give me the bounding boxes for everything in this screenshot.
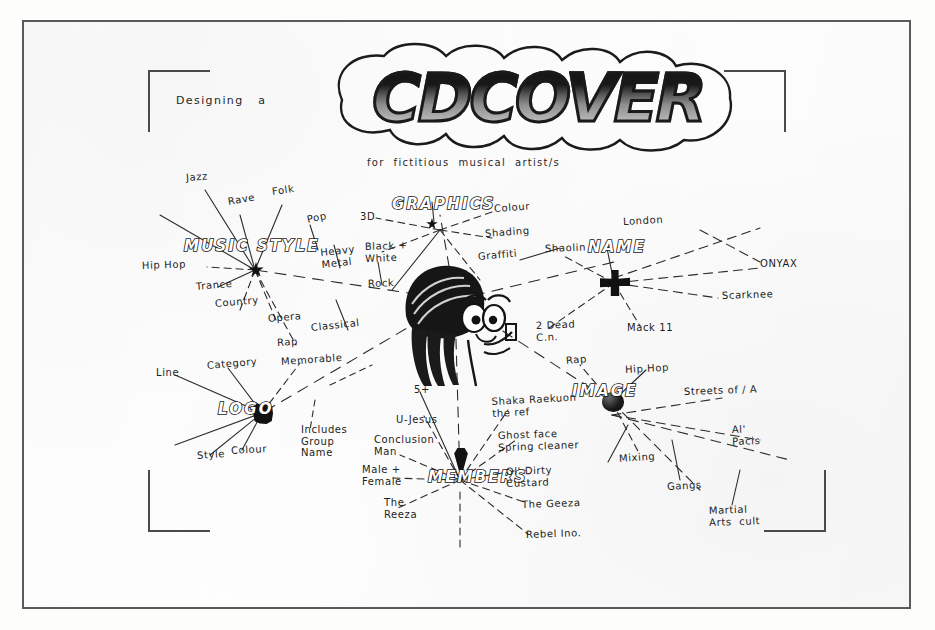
mindmap-page: Designing a CDCOVER for fictitious music… [0,0,935,630]
leaf-name-2-dead: 2 Dead C.n. [536,319,576,343]
leaf-music-rock: Rock [368,277,395,289]
leaf-logo-group-name: Includes Group Name [301,424,347,459]
leaf-logo-style: Style [197,448,226,461]
leaf-name-scarknee: Scarknee [722,288,774,301]
leaf-members-ghostface: Ghost face Spring cleaner [498,427,580,453]
page-subtitle: for fictitious musical artist/s [367,157,560,169]
leaf-name-mack-11: Mack 11 [627,322,673,334]
leaf-members-the-reeza: The Reeza [384,497,417,520]
title-text: CDCOVER [312,42,764,154]
page-title-prefix: Designing a [176,95,266,108]
node-image[interactable]: IMAGE [572,382,638,400]
leaf-music-hip-hop: Hip Hop [142,258,186,271]
leaf-image-gangs: Gangs [667,479,702,492]
node-graphics[interactable]: GRAPHICS [392,195,495,213]
leaf-members-shaka: Shaka Raekuon the ref [491,392,577,419]
leaf-members-5-plus: 5+ [414,384,430,396]
leaf-members-u-jesus: U-Jesus [396,414,438,426]
leaf-graphics-black-white: Black + White [365,240,409,264]
leaf-members-conclusion: Conclusion Man [374,434,435,457]
central-character-illustration [398,252,518,388]
leaf-music-heavy-metal: Heavy Metal [320,243,357,269]
leaf-members-male-female: Male + Female [362,464,402,487]
node-music-style[interactable]: MUSIC STYLE [184,237,320,255]
leaf-music-rap: Rap [277,336,299,349]
leaf-logo-colour: Colour [231,443,268,456]
leaf-image-rap: Rap [565,353,587,366]
leaf-music-jazz: Jazz [186,170,209,183]
leaf-name-onyax: ONYAX [760,258,797,270]
leaf-image-al-pacis: Al' Pacis [732,423,761,447]
leaf-name-shaolin: Shaolin [545,242,586,255]
leaf-graphics-3d: 3D [360,211,375,223]
node-logo[interactable]: LOGO [218,400,274,418]
leaf-image-hip-hop: Hip Hop [625,362,670,376]
leaf-members-ol-dirty: Ol' Dirty Custard [506,464,553,489]
node-name[interactable]: NAME [588,238,646,256]
leaf-members-the-geeza: The Geeza [522,497,581,511]
leaf-name-london: London [623,214,664,228]
leaf-logo-line: Line [156,367,179,379]
leaf-members-rebel-ino: Rebel Ino. [526,527,582,540]
cd-cover-title: CDCOVER [312,42,764,154]
leaf-image-martial: Martial Arts cult [709,503,761,528]
